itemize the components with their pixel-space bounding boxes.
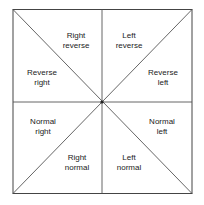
octant-diagram <box>0 0 204 205</box>
region-label-right-normal: Rightnormal <box>52 153 102 173</box>
region-label-left-normal: Leftnormal <box>104 153 154 173</box>
label-line1: Reverse <box>138 68 188 78</box>
label-line1: Right <box>52 153 102 163</box>
label-line1: Reverse <box>17 68 67 78</box>
region-label-normal-right: Normalright <box>18 117 68 137</box>
region-label-reverse-left: Reverseleft <box>138 68 188 88</box>
label-line2: right <box>18 127 68 137</box>
region-label-reverse-right: Reverseright <box>17 68 67 88</box>
region-label-left-reverse: Leftreverse <box>104 31 154 51</box>
label-line1: Normal <box>18 117 68 127</box>
label-line1: Normal <box>137 117 187 127</box>
region-label-normal-left: Normalleft <box>137 117 187 137</box>
label-line2: right <box>17 78 67 88</box>
label-line2: reverse <box>51 41 101 51</box>
label-line2: reverse <box>104 41 154 51</box>
center-point <box>100 100 103 103</box>
label-line1: Left <box>104 31 154 41</box>
label-line2: left <box>138 78 188 88</box>
region-label-right-reverse: Rightreverse <box>51 31 101 51</box>
label-line1: Right <box>51 31 101 41</box>
label-line2: normal <box>52 163 102 173</box>
label-line2: normal <box>104 163 154 173</box>
label-line2: left <box>137 127 187 137</box>
label-line1: Left <box>104 153 154 163</box>
